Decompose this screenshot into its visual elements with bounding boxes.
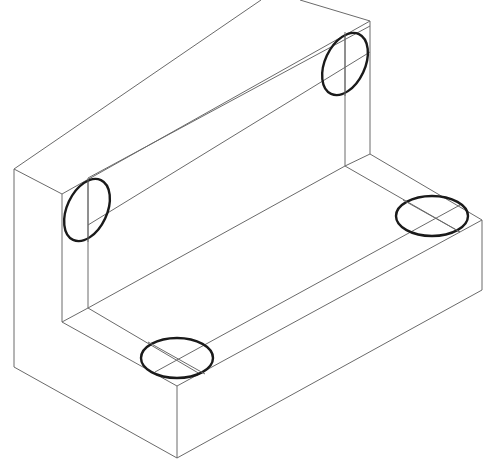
base-right-hole: [396, 196, 468, 236]
base-front-hole: [141, 338, 213, 378]
upright-left-hole: [55, 172, 119, 249]
inner-corner-left-step: [62, 308, 88, 322]
upright-top-side-edge-left: [14, 169, 62, 194]
base-bottom-left-edge: [14, 367, 177, 458]
base-top-mid-line: [155, 205, 460, 372]
upright-inner-edge-2: [88, 52, 370, 225]
bracket-edges: [14, 0, 482, 458]
base-bottom-right-edge: [177, 290, 482, 458]
inner-corner-right-step: [345, 154, 370, 166]
l-bracket-isometric-drawing: [0, 0, 486, 467]
upright-top-back-edge: [14, 0, 261, 169]
upright-inner-edge-1: [88, 26, 370, 178]
upright-top-front-edge: [62, 21, 370, 194]
upright-top-side-edge-right: [300, 0, 370, 21]
base-top-front-edge: [177, 220, 482, 386]
inner-corner-back-edge: [88, 166, 345, 308]
upright-right-hole: [313, 26, 377, 103]
